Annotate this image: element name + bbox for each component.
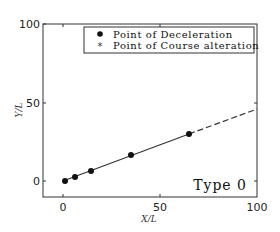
x-axis-label: X/L bbox=[140, 214, 156, 224]
legend-label-course-alteration: Point of Course alteration bbox=[113, 40, 259, 51]
y-tick-0: 0 bbox=[33, 175, 40, 188]
x-tick-50: 50 bbox=[153, 201, 167, 214]
chart: 100 50 0 Y/L 0 50 100 X/L Point of Decel… bbox=[0, 0, 280, 232]
legend: Point of Deceleration * Point of Course … bbox=[84, 27, 259, 53]
asterisk-icon: * bbox=[98, 41, 103, 52]
legend-label-deceleration: Point of Deceleration bbox=[113, 29, 233, 40]
data-point bbox=[186, 131, 192, 137]
y-tick-50: 50 bbox=[26, 97, 40, 110]
data-point bbox=[62, 178, 68, 184]
filled-circle-icon bbox=[97, 31, 103, 37]
x-axis: 0 50 100 X/L bbox=[60, 24, 268, 224]
y-tick-100: 100 bbox=[19, 18, 40, 31]
y-axis-label: Y/L bbox=[14, 103, 24, 118]
data-point bbox=[128, 152, 134, 158]
type-annotation: Type 0 bbox=[193, 177, 247, 193]
data-point bbox=[88, 168, 94, 174]
data-point bbox=[72, 174, 78, 180]
x-tick-100: 100 bbox=[247, 201, 268, 214]
trajectory-line-dashed bbox=[189, 109, 257, 134]
x-tick-0: 0 bbox=[60, 201, 67, 214]
trajectory-line bbox=[63, 134, 189, 181]
